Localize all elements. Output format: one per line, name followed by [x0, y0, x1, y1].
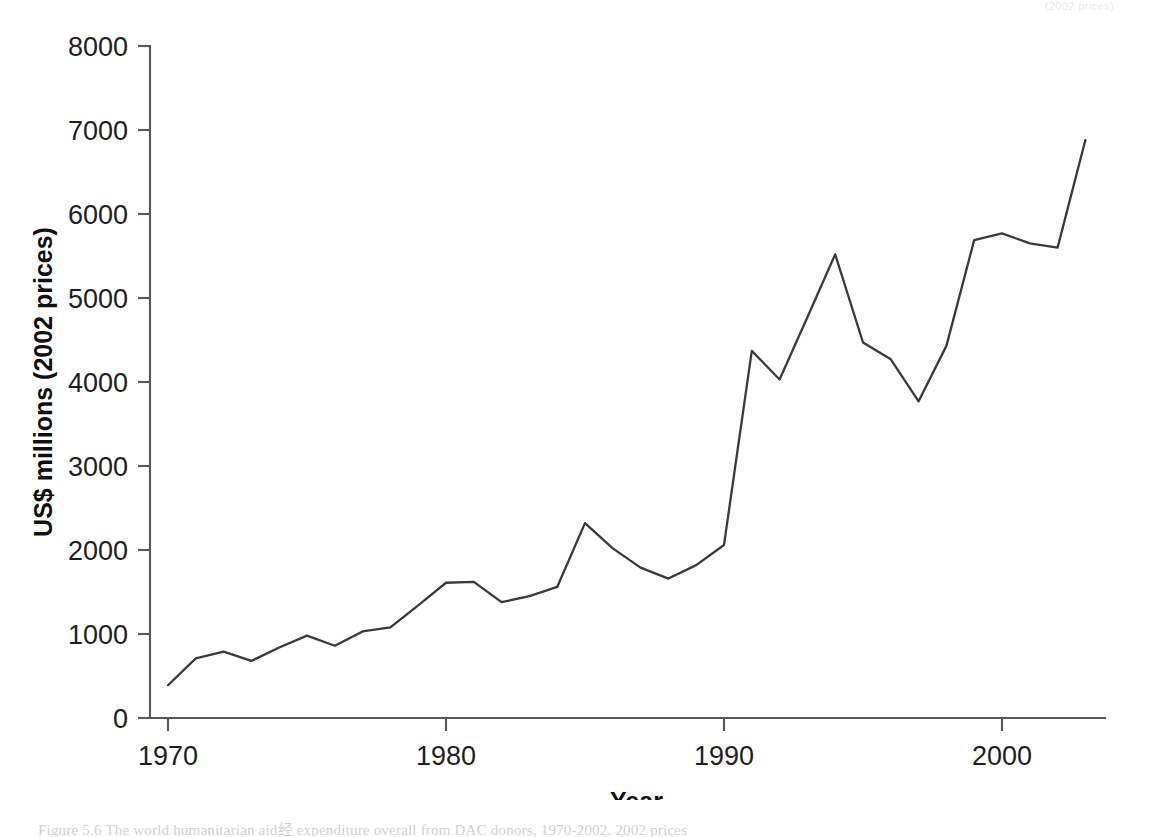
y-tick-label: 1000: [68, 620, 128, 650]
x-tick-label: 2000: [972, 741, 1032, 771]
x-tick-label: 1980: [416, 741, 476, 771]
data-series-line: [168, 140, 1085, 685]
line-chart: 010002000300040005000600070008000 197019…: [0, 0, 1154, 800]
x-axis-title: Year: [610, 787, 663, 800]
chart-svg: 010002000300040005000600070008000 197019…: [0, 0, 1154, 800]
x-tick-label: 1970: [138, 741, 198, 771]
y-tick-label: 7000: [68, 116, 128, 146]
y-tick-label: 3000: [68, 452, 128, 482]
y-axis-tick-marks: [138, 46, 150, 718]
y-axis-tick-labels: 010002000300040005000600070008000: [68, 32, 128, 734]
y-tick-label: 6000: [68, 200, 128, 230]
x-tick-label: 1990: [694, 741, 754, 771]
y-tick-label: 4000: [68, 368, 128, 398]
x-axis-tick-labels: 1970198019902000: [138, 741, 1032, 771]
y-tick-label: 0: [113, 704, 128, 734]
figure-root: (2002 prices) 01000200030004000500060007…: [0, 0, 1154, 837]
x-axis-tick-marks: [168, 718, 1002, 731]
y-tick-label: 2000: [68, 536, 128, 566]
y-tick-label: 8000: [68, 32, 128, 62]
figure-caption: Figure 5.6 The world humanitarian aid经 e…: [0, 818, 1154, 837]
y-axis-title: US$ millions (2002 prices): [29, 227, 57, 537]
y-tick-label: 5000: [68, 284, 128, 314]
